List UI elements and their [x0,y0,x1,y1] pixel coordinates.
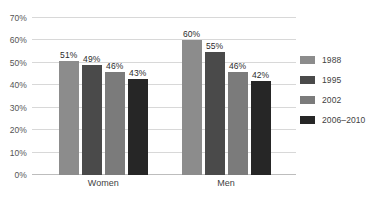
legend-swatch-icon [300,96,315,104]
y-axis-tick-label: 60% [10,35,27,45]
bar-rect [182,40,202,175]
bar-value-label: 51% [60,50,77,60]
legend-swatch-icon [300,56,315,64]
bar-value-label: 46% [229,61,246,71]
bar-men-1995[interactable]: 55% [205,18,225,175]
legend-label: 2002 [322,95,341,105]
bar-rect [59,61,79,175]
bar-value-label: 49% [83,54,100,64]
category-label-women: Women [88,178,119,188]
bar-rect [251,81,271,175]
category-label-men: Men [217,178,235,188]
bar-women-1988[interactable]: 51% [59,18,79,175]
legend-swatch-icon [300,76,315,84]
legend-item-2002[interactable]: 2002 [300,90,384,110]
bar-rect [82,65,102,175]
legend-label: 2006–2010 [322,115,365,125]
bar-women-2006-2010[interactable]: 43% [128,18,148,175]
bar-value-label: 42% [252,70,269,80]
bar-women-1995[interactable]: 49% [82,18,102,175]
bar-value-label: 43% [129,68,146,78]
y-axis-tick-label: 50% [10,58,27,68]
bar-value-label: 55% [206,41,223,51]
bar-women-2002[interactable]: 46% [105,18,125,175]
legend-label: 1988 [322,55,341,65]
legend-item-1995[interactable]: 1995 [300,70,384,90]
legend-item-2006-2010[interactable]: 2006–2010 [300,110,384,130]
x-axis-category-labels: WomenMen [32,178,296,198]
bar-rect [228,72,248,175]
bar-value-label: 60% [183,29,200,39]
y-axis-tick-label: 70% [10,13,27,23]
bar-rect [128,79,148,175]
bar-group-men: 60%55%46%42% [182,18,271,175]
bar-groups: 51%49%46%43%60%55%46%42% [32,18,296,175]
legend-item-1988[interactable]: 1988 [300,50,384,70]
bar-men-2006-2010[interactable]: 42% [251,18,271,175]
bar-group-women: 51%49%46%43% [59,18,148,175]
legend-label: 1995 [322,75,341,85]
y-axis-tick-label: 0% [15,170,28,180]
bar-value-label: 46% [106,61,123,71]
bar-chart: 0%10%20%30%40%50%60%70% 51%49%46%43%60%5… [0,0,386,204]
y-axis: 0%10%20%30%40%50%60%70% [0,18,30,175]
bar-men-2002[interactable]: 46% [228,18,248,175]
legend: 1988199520022006–2010 [300,50,384,130]
legend-swatch-icon [300,116,315,124]
bar-men-1988[interactable]: 60% [182,18,202,175]
y-axis-tick-label: 10% [10,148,27,158]
y-axis-tick-label: 30% [10,103,27,113]
plot-area: 51%49%46%43%60%55%46%42% [32,18,296,175]
y-axis-tick-label: 20% [10,125,27,135]
bar-rect [105,72,125,175]
y-axis-tick-label: 40% [10,80,27,90]
bar-rect [205,52,225,175]
